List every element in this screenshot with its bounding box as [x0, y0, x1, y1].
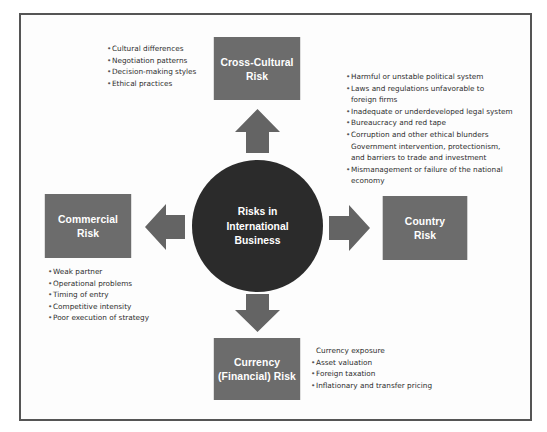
- box-label-line: Currency: [218, 355, 296, 369]
- box-label-line: (Financial) Risk: [218, 369, 296, 383]
- list-item: Competitive intensity: [48, 301, 149, 313]
- list-item: Decision-making styles: [107, 66, 196, 78]
- list-item: Foreign taxation: [311, 368, 432, 380]
- list-item: Inflationary and transfer pricing: [311, 380, 432, 392]
- risks-in-international-business-hub: Risks in International Business: [192, 160, 323, 292]
- currency-risk-list: Currency exposure Asset valuation Foreig…: [311, 345, 432, 391]
- cross-cultural-risk-list: Cultural differences Negotiation pattern…: [107, 43, 196, 89]
- hub-label-line: International: [226, 219, 288, 234]
- hub-label-line: Business: [226, 233, 288, 248]
- commercial-risk-list: Weak partner Operational problems Timing…: [48, 266, 149, 324]
- list-item: Poor execution of strategy: [48, 312, 149, 324]
- box-label-line: Country: [405, 214, 445, 228]
- list-item: Bureaucracy and red tape: [346, 117, 513, 129]
- arrow-down-icon: [234, 294, 281, 332]
- list-item: Weak partner: [48, 266, 149, 278]
- cross-cultural-risk-box: Cross-Cultural Risk: [214, 37, 300, 100]
- list-item: Laws and regulations unfavorable to: [346, 83, 513, 95]
- list-item-continuation: and barriers to trade and investment: [346, 152, 513, 164]
- arrow-up-icon: [234, 109, 281, 153]
- list-item: Operational problems: [48, 278, 149, 290]
- box-label-line: Risk: [405, 228, 445, 242]
- list-item: Ethical practices: [107, 78, 196, 90]
- country-risk-list: Harmful or unstable political system Law…: [346, 71, 513, 187]
- box-label-line: Cross-Cultural: [220, 55, 293, 69]
- box-label-line: Commercial: [58, 212, 118, 226]
- box-label-line: Risk: [58, 226, 118, 240]
- country-risk-box: Country Risk: [383, 196, 468, 260]
- list-item-continuation: foreign firms: [346, 94, 513, 106]
- list-item: Asset valuation: [311, 357, 432, 369]
- list-item: Cultural differences: [107, 43, 196, 55]
- list-item-continuation: economy: [346, 175, 513, 187]
- hub-label-line: Risks in: [226, 204, 288, 219]
- list-item: Corruption and other ethical blunders: [346, 129, 513, 141]
- list-item: Currency exposure: [311, 345, 432, 357]
- arrow-right-icon: [329, 204, 370, 252]
- list-item: Mismanagement or failure of the national: [346, 164, 513, 176]
- commercial-risk-box: Commercial Risk: [45, 194, 131, 258]
- arrow-left-icon: [145, 203, 185, 251]
- list-item: Negotiation patterns: [107, 55, 196, 67]
- list-item: Timing of entry: [48, 289, 149, 301]
- box-label-line: Risk: [220, 69, 293, 83]
- list-item: Government intervention, protectionism,: [346, 141, 513, 153]
- currency-financial-risk-box: Currency (Financial) Risk: [214, 338, 300, 400]
- list-item: Harmful or unstable political system: [346, 71, 513, 83]
- list-item: Inadequate or underdeveloped legal syste…: [346, 106, 513, 118]
